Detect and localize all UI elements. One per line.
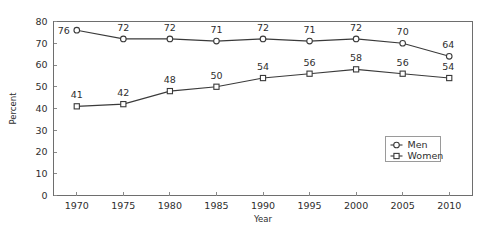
y-tick-label: 10 <box>35 168 47 179</box>
data-point-marker <box>400 71 405 76</box>
line-chart-canvas: 0102030405060708019701975198019851990199… <box>0 0 494 239</box>
data-point-label: 42 <box>117 87 129 98</box>
plot-frame <box>54 22 473 196</box>
legend-marker <box>394 153 399 158</box>
y-tick-label: 50 <box>35 81 47 92</box>
y-tick-label: 70 <box>35 38 47 49</box>
series-men: 767272717271727064 <box>58 22 455 59</box>
data-point-marker <box>307 38 313 44</box>
data-point-label: 76 <box>58 25 70 36</box>
x-tick-label: 1990 <box>251 200 275 211</box>
x-tick-label: 1980 <box>158 200 182 211</box>
data-point-marker <box>447 75 452 80</box>
data-point-marker <box>167 36 173 42</box>
x-tick-label: 1985 <box>204 200 228 211</box>
y-tick-label: 20 <box>35 146 47 157</box>
x-axis-title: Year <box>253 214 273 224</box>
legend-label-men: Men <box>408 139 428 150</box>
legend-label-women: Women <box>408 150 444 161</box>
y-tick-label: 30 <box>35 125 47 136</box>
x-tick-label: 1995 <box>297 200 321 211</box>
series-line-women <box>77 69 449 106</box>
data-point-marker <box>307 71 312 76</box>
y-tick-label: 0 <box>41 190 47 201</box>
data-point-marker <box>121 102 126 107</box>
x-tick-label: 2005 <box>391 200 415 211</box>
chart-figure: 0102030405060708019701975198019851990199… <box>0 0 494 239</box>
data-point-marker <box>353 36 359 42</box>
data-point-label: 58 <box>350 52 362 63</box>
data-point-marker <box>121 36 127 42</box>
data-point-label: 72 <box>350 22 362 33</box>
legend-marker <box>394 142 400 148</box>
data-point-label: 64 <box>442 39 454 50</box>
series-women: 414248505456585654 <box>71 52 455 109</box>
data-point-label: 56 <box>397 57 409 68</box>
y-tick-label: 40 <box>35 103 47 114</box>
data-point-label: 71 <box>210 24 222 35</box>
x-tick-label: 2000 <box>344 200 368 211</box>
data-point-marker <box>354 67 359 72</box>
data-point-marker <box>214 84 219 89</box>
x-tick-label: 2010 <box>437 200 461 211</box>
data-point-label: 50 <box>210 70 222 81</box>
data-point-label: 70 <box>397 26 409 37</box>
data-point-label: 72 <box>257 22 269 33</box>
y-tick-label: 60 <box>35 59 47 70</box>
data-point-marker <box>74 104 79 109</box>
data-point-label: 41 <box>71 89 83 100</box>
chart-legend: MenWomen <box>386 137 444 162</box>
data-point-marker <box>260 36 266 42</box>
data-point-marker <box>167 89 172 94</box>
data-point-marker <box>446 54 452 60</box>
data-point-label: 54 <box>257 61 269 72</box>
data-point-marker <box>214 38 220 44</box>
data-point-marker <box>260 75 265 80</box>
series-line-men <box>77 30 449 56</box>
data-point-label: 72 <box>164 22 176 33</box>
data-point-label: 72 <box>117 22 129 33</box>
data-point-marker <box>400 40 406 46</box>
y-tick-label: 80 <box>35 16 47 27</box>
data-point-label: 56 <box>304 57 316 68</box>
data-point-marker <box>74 27 80 33</box>
data-point-label: 71 <box>304 24 316 35</box>
data-point-label: 48 <box>164 74 176 85</box>
y-axis-title: Percent <box>8 92 18 125</box>
x-tick-label: 1970 <box>65 200 89 211</box>
data-point-label: 54 <box>442 61 454 72</box>
x-tick-label: 1975 <box>111 200 135 211</box>
